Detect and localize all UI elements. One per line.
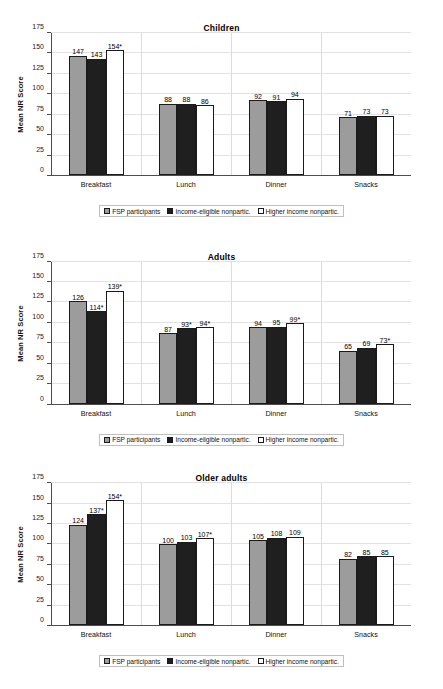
x-axis-labels: BreakfastLunchDinnerSnacks [51,409,411,418]
bar-value-label: 154* [108,493,122,500]
bar-value-label: 88 [183,96,191,103]
x-axis-label: Snacks [321,180,411,189]
bar-slot: 143 [87,33,105,175]
y-axis-tick-label: 150 [32,272,44,279]
bar[interactable]: 65 [339,351,357,404]
bar-slot: 88 [177,33,195,175]
bar[interactable]: 91 [267,101,285,175]
chart-panel-1: ChildrenMean NR Score0255075100125150175… [0,0,443,230]
bar-group-snacks: 656973* [322,262,411,404]
bar-value-label: 99* [290,316,301,323]
bar[interactable]: 109 [286,537,304,625]
bar-slot: 124 [69,483,87,625]
bar[interactable]: 93* [177,328,195,403]
y-axis-tick-label: 125 [32,292,44,299]
legend-item[interactable]: Income-eligible nonpartic. [167,436,250,443]
bar[interactable]: 139* [106,291,124,404]
bar[interactable]: 82 [339,559,357,626]
legend-item[interactable]: FSP participants [104,436,160,443]
legend-item[interactable]: Higher income nonpartic. [258,208,339,215]
bar[interactable]: 95 [267,327,285,404]
legend-item[interactable]: FSP participants [104,658,160,665]
bar-slot: 100 [159,483,177,625]
legend-swatch-icon [104,658,110,664]
bar[interactable]: 100 [159,544,177,625]
legend-swatch-icon [167,208,173,214]
legend: FSP participantsIncome-eligible nonparti… [0,205,443,217]
legend-item[interactable]: FSP participants [104,208,160,215]
bar[interactable]: 85 [376,556,394,625]
y-axis-tick-label: 50 [36,125,44,132]
legend-item[interactable]: Higher income nonpartic. [258,436,339,443]
legend-label: FSP participants [112,658,160,665]
bar-value-label: 73 [381,108,389,115]
bar[interactable]: 99* [286,323,304,403]
bar-group-dinner: 949599* [232,262,322,404]
bar-value-label: 94 [291,91,299,98]
bar-value-label: 105 [252,533,264,540]
bar-value-label: 109 [289,529,301,536]
bar-value-label: 100 [162,537,174,544]
y-axis-tick-label: 25 [36,595,44,602]
bar[interactable]: 73* [376,344,394,403]
bar[interactable]: 154* [106,50,124,175]
legend-label: Higher income nonpartic. [266,658,339,665]
bars: 100103107* [159,483,214,625]
bar[interactable]: 88 [177,104,195,175]
legend-label: Higher income nonpartic. [266,436,339,443]
legend-box: FSP participantsIncome-eligible nonparti… [99,655,344,667]
legend-item[interactable]: Income-eligible nonpartic. [167,208,250,215]
bar[interactable]: 137* [87,514,105,625]
bars: 656973* [339,262,394,404]
x-axis-label: Lunch [141,630,231,639]
bar-value-label: 71 [344,110,352,117]
bar[interactable]: 87 [159,333,177,404]
bars: 929194 [249,33,304,175]
bar[interactable]: 124 [69,525,87,626]
bar[interactable]: 73 [376,116,394,175]
bar[interactable]: 107* [196,538,214,625]
bar[interactable]: 94 [249,327,267,403]
bar-slot: 99* [286,262,304,404]
bar-value-label: 126 [72,294,84,301]
bar[interactable]: 103 [177,542,195,626]
bar[interactable]: 94 [286,99,304,175]
bar-value-label: 137* [89,507,103,514]
bar-value-label: 143 [91,51,103,58]
bar[interactable]: 114* [87,311,105,404]
bars: 8793*94* [159,262,214,404]
y-axis-label-text: Mean NR Score [16,76,25,132]
bar[interactable]: 73 [357,116,375,175]
bar[interactable]: 94* [196,327,214,403]
bar-slot: 93* [177,262,195,404]
x-axis-labels: BreakfastLunchDinnerSnacks [51,630,411,639]
x-axis-label: Breakfast [51,409,141,418]
bar[interactable]: 69 [357,348,375,404]
bar[interactable]: 92 [249,100,267,175]
bar[interactable]: 147 [69,56,87,175]
bar[interactable]: 154* [106,500,124,625]
legend-item[interactable]: Income-eligible nonpartic. [167,658,250,665]
bar-value-label: 69 [363,340,371,347]
legend-box: FSP participantsIncome-eligible nonparti… [99,434,344,446]
bar-slot: 95 [267,262,285,404]
bar-group-dinner: 929194 [232,33,322,175]
y-axis-tick-label: 125 [32,63,44,70]
x-axis-label: Breakfast [51,180,141,189]
bar[interactable]: 88 [159,104,177,175]
legend-label: FSP participants [112,208,160,215]
bar[interactable]: 126 [69,301,87,403]
legend-swatch-icon [258,658,264,664]
bar[interactable]: 108 [267,538,285,626]
legend-swatch-icon [167,658,173,664]
bar[interactable]: 143 [87,59,105,175]
bar[interactable]: 86 [196,105,214,175]
bar-value-label: 82 [344,551,352,558]
bar[interactable]: 105 [249,540,267,625]
bar[interactable]: 85 [357,556,375,625]
legend-item[interactable]: Higher income nonpartic. [258,658,339,665]
x-axis-label: Snacks [321,630,411,639]
y-axis-tick-label: 0 [40,394,44,401]
bar-group-breakfast: 124137*154* [52,483,142,625]
bar[interactable]: 71 [339,117,357,175]
